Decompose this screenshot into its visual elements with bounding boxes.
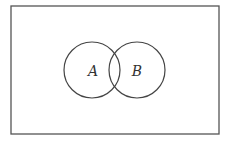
venn-diagram: A B [0,0,228,141]
set-b-label: B [131,63,142,79]
set-a-label: A [86,63,98,79]
universe-rectangle [11,6,219,134]
